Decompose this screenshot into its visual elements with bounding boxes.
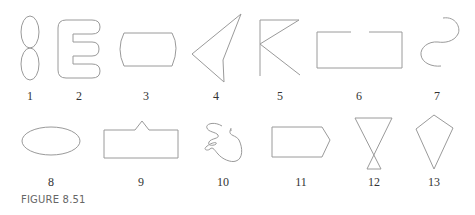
figure-canvas: 1 2 3 4 5 6 7 8 9 10 11 [0, 0, 475, 215]
shape-8-ellipse: 8 [22, 127, 80, 189]
shape-4-arrowhead: 4 [192, 14, 241, 103]
shape-2-letter-e: 2 [58, 20, 100, 103]
shape-label-7: 7 [434, 89, 440, 103]
shape-label-11: 11 [295, 175, 307, 189]
shape-label-10: 10 [217, 175, 229, 189]
shape-1-figure-eight: 1 [21, 16, 39, 103]
shape-12-hourglass: 12 [355, 118, 392, 189]
shape-label-2: 2 [76, 89, 82, 103]
shape-11-pentagon-arrow: 11 [272, 127, 330, 189]
shape-label-6: 6 [356, 89, 362, 103]
shape-5-k-polyline: 5 [260, 20, 300, 103]
shape-label-3: 3 [143, 89, 149, 103]
shape-label-9: 9 [138, 175, 144, 189]
figure-caption: FIGURE 8.51 [21, 194, 86, 205]
shape-13-kite: 13 [416, 115, 453, 189]
shape-label-8: 8 [48, 175, 54, 189]
shape-3-rounded-rect: 3 [120, 33, 176, 103]
shape-7-s-curve: 7 [421, 18, 459, 103]
shape-label-13: 13 [428, 175, 440, 189]
shape-label-1: 1 [27, 89, 33, 103]
shape-10-scribble: 10 [205, 123, 242, 189]
shape-label-5: 5 [277, 89, 283, 103]
shape-label-12: 12 [368, 175, 380, 189]
shape-6-open-rect: 6 [317, 32, 402, 103]
shape-label-4: 4 [213, 89, 219, 103]
shape-9-notched-rect: 9 [104, 121, 178, 189]
